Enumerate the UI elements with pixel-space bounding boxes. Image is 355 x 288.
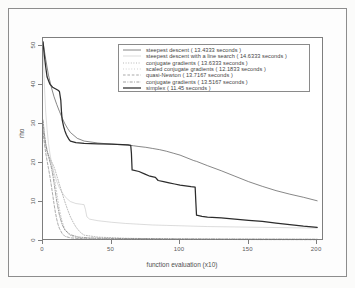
- y-tick-mark: [38, 162, 42, 163]
- y-tick-label: 50: [30, 39, 36, 51]
- legend-line-swatch: [122, 60, 142, 66]
- x-tick-label: 100: [174, 246, 185, 252]
- y-tick-mark: [38, 201, 42, 202]
- chart-legend: steepest descent ( 13.4333 seconds )stee…: [118, 44, 310, 92]
- x-tick-label: 0: [40, 246, 44, 252]
- chart-figure: rho function evaluation (x10) steepest d…: [0, 0, 355, 288]
- legend-line-swatch: [122, 66, 142, 72]
- legend-label: steepest descent with a line search ( 14…: [146, 53, 287, 59]
- legend-label: quasi-Newton ( 13.7167 seconds ): [146, 72, 233, 78]
- series-line-2: [43, 122, 317, 240]
- legend-label: conjugate gradients ( 13.6333 seconds ): [146, 60, 248, 66]
- x-tick-mark: [248, 240, 249, 244]
- x-tick-mark: [111, 240, 112, 244]
- legend-line-swatch: [122, 53, 142, 59]
- series-line-5: [43, 120, 317, 239]
- y-tick-label: 0: [30, 234, 36, 246]
- legend-label: conjugate gradients ( 13.5167 seconds ): [146, 79, 248, 85]
- legend-line-swatch: [122, 85, 142, 91]
- legend-line-swatch: [122, 79, 142, 85]
- y-tick-label: 30: [30, 117, 36, 129]
- y-tick-mark: [38, 123, 42, 124]
- x-tick-mark: [42, 240, 43, 244]
- legend-label: steepest descent ( 13.4333 seconds ): [146, 47, 241, 53]
- y-tick-label: 20: [30, 156, 36, 168]
- x-axis-title: function evaluation (x10): [147, 261, 218, 268]
- x-tick-mark: [179, 240, 180, 244]
- x-tick-label: 50: [107, 246, 114, 252]
- legend-label: scaled conjugate gradients ( 12.1833 sec…: [146, 66, 266, 72]
- y-tick-label: 40: [30, 78, 36, 90]
- y-axis-title: rho: [18, 129, 25, 138]
- x-tick-mark: [316, 240, 317, 244]
- x-tick-label: 200: [311, 246, 322, 252]
- y-tick-mark: [38, 240, 42, 241]
- legend-line-swatch: [122, 72, 142, 78]
- legend-row: steepest descent with a line search ( 14…: [122, 53, 306, 59]
- legend-line-swatch: [122, 47, 142, 53]
- y-tick-mark: [38, 45, 42, 46]
- y-tick-mark: [38, 84, 42, 85]
- legend-row: simplex ( 11.45 seconds ): [122, 85, 306, 91]
- y-tick-label: 10: [30, 195, 36, 207]
- legend-label: simplex ( 11.45 seconds ): [146, 85, 211, 91]
- x-tick-label: 150: [242, 246, 253, 252]
